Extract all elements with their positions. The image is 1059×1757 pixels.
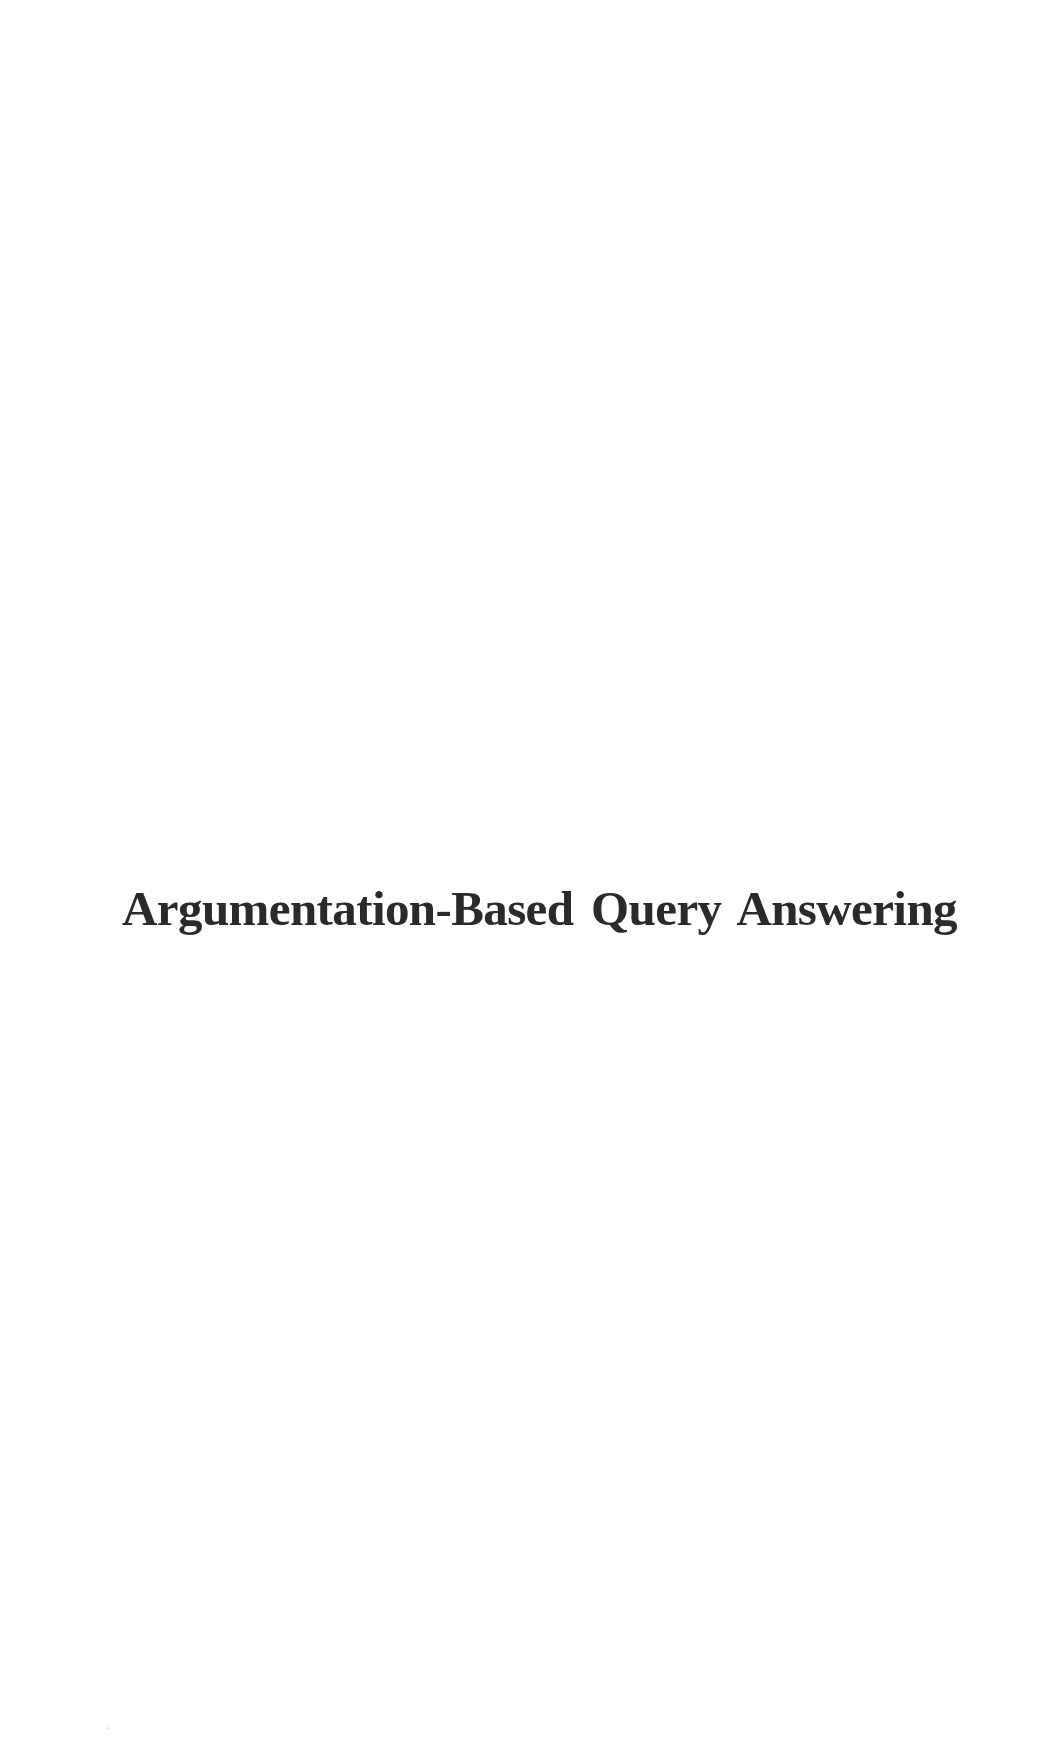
scan-speck xyxy=(107,1727,110,1730)
page-title: Argumentation-Based Query Answering xyxy=(0,879,1059,939)
document-page: Argumentation-Based Query Answering xyxy=(0,0,1059,1757)
